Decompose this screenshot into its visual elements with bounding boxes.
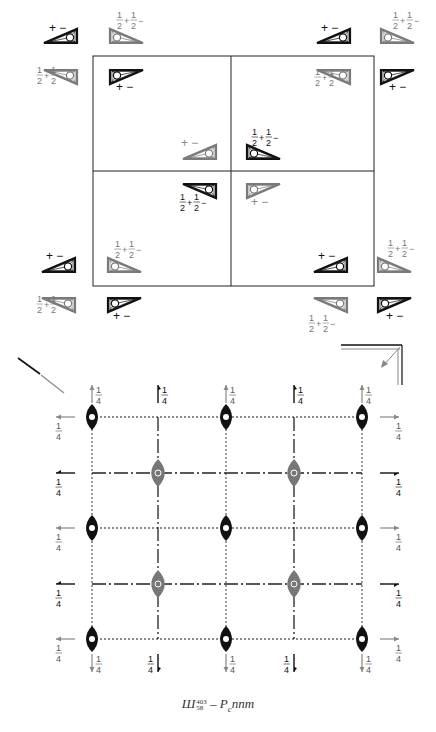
svg-text:+ −: + − (321, 21, 338, 35)
svg-text:+ −: + − (318, 249, 335, 263)
svg-text:4: 4 (56, 599, 61, 609)
top-axis-arrows: 14 14 14 14 14 (90, 385, 373, 406)
svg-text:+ −: + − (181, 136, 198, 150)
svg-text:1: 1 (396, 477, 401, 487)
svg-text:1: 1 (56, 477, 61, 487)
svg-text:+: + (316, 319, 321, 329)
svg-text:4: 4 (396, 599, 401, 609)
svg-text:4: 4 (396, 488, 401, 498)
svg-text:1: 1 (37, 65, 42, 75)
svg-text:1: 1 (115, 239, 120, 249)
svg-text:4: 4 (56, 543, 61, 553)
svg-text:+: + (187, 198, 192, 208)
svg-text:−: − (336, 73, 341, 83)
right-axis-arrows: 14 14 14 14 14 (380, 415, 402, 665)
svg-text:1: 1 (407, 10, 412, 20)
svg-text:−: − (136, 245, 141, 255)
bottom-panel: 14 14 14 14 14 14 14 14 14 14 14 14 14 1… (18, 345, 402, 675)
svg-text:2: 2 (329, 78, 334, 88)
space-group-diagram: + − + − + − + − + − + − + − (0, 0, 436, 732)
svg-text:1: 1 (56, 421, 61, 431)
svg-text:−: − (414, 16, 419, 26)
svg-text:−: − (409, 244, 414, 254)
svg-text:1: 1 (323, 313, 328, 323)
svg-text:4: 4 (56, 654, 61, 664)
svg-text:1: 1 (180, 192, 185, 202)
svg-text:4: 4 (284, 665, 289, 675)
svg-text:−: − (58, 300, 63, 310)
svg-text:−: − (58, 71, 63, 81)
svg-text:1: 1 (131, 10, 136, 20)
caption-prefix: Ш (182, 696, 196, 711)
diagonal-axis-marker (18, 358, 64, 393)
caption-subscript: 58 (196, 705, 207, 711)
bottom-axis-arrows: 14 14 14 14 14 (90, 654, 373, 675)
svg-text:1: 1 (284, 654, 289, 664)
svg-text:+ −: + − (389, 80, 406, 94)
svg-text:−: − (201, 198, 206, 208)
svg-text:4: 4 (366, 665, 371, 675)
svg-text:2: 2 (117, 21, 122, 31)
svg-text:1: 1 (402, 238, 407, 248)
svg-text:+ −: + − (386, 309, 403, 323)
svg-text:1: 1 (194, 192, 199, 202)
svg-text:1: 1 (51, 65, 56, 75)
svg-text:+: + (322, 73, 327, 83)
svg-text:1: 1 (298, 385, 303, 395)
svg-text:+: + (395, 244, 400, 254)
svg-text:4: 4 (96, 665, 101, 675)
svg-text:1: 1 (117, 10, 122, 20)
svg-text:1: 1 (230, 654, 235, 664)
svg-text:+: + (44, 300, 49, 310)
svg-text:−: − (330, 319, 335, 329)
svg-text:1: 1 (162, 385, 167, 395)
svg-text:+ −: + − (116, 80, 133, 94)
caption-symbol-main: P (220, 696, 228, 711)
svg-text:+: + (124, 16, 129, 26)
svg-text:1: 1 (148, 654, 153, 664)
svg-text:1: 1 (266, 127, 271, 137)
svg-text:4: 4 (56, 432, 61, 442)
svg-text:4: 4 (96, 396, 101, 406)
svg-text:2: 2 (37, 305, 42, 315)
top-panel: + − + − + − + − + − + − + − (37, 10, 420, 334)
svg-text:1: 1 (37, 294, 42, 304)
svg-text:1: 1 (396, 588, 401, 598)
svg-text:+: + (122, 245, 127, 255)
svg-text:4: 4 (366, 396, 371, 406)
svg-text:1: 1 (396, 421, 401, 431)
svg-text:2: 2 (129, 250, 134, 260)
svg-text:4: 4 (162, 396, 167, 406)
svg-text:4: 4 (396, 432, 401, 442)
svg-text:+: + (44, 71, 49, 81)
svg-text:2: 2 (51, 76, 56, 86)
svg-text:1: 1 (129, 239, 134, 249)
figure-caption: Ш40358 – Pcnnm (0, 696, 436, 714)
svg-text:2: 2 (37, 76, 42, 86)
svg-text:1: 1 (396, 532, 401, 542)
svg-text:4: 4 (56, 488, 61, 498)
svg-text:2: 2 (115, 250, 120, 260)
svg-text:2: 2 (194, 203, 199, 213)
svg-text:+ −: + − (251, 195, 268, 209)
svg-text:4: 4 (230, 665, 235, 675)
svg-text:2: 2 (180, 203, 185, 213)
svg-text:4: 4 (230, 396, 235, 406)
svg-text:2: 2 (51, 305, 56, 315)
half-labels: 12 + 12 − 12 + 12 − 12 + 12 − 12 + 12 (37, 10, 420, 334)
svg-text:2: 2 (323, 324, 328, 334)
svg-text:1: 1 (366, 654, 371, 664)
svg-text:1: 1 (56, 643, 61, 653)
svg-text:+ −: + − (49, 21, 66, 35)
svg-text:+: + (400, 16, 405, 26)
svg-text:1: 1 (96, 385, 101, 395)
svg-text:1: 1 (309, 313, 314, 323)
svg-text:+ −: + − (113, 309, 130, 323)
svg-text:4: 4 (298, 396, 303, 406)
svg-text:4: 4 (148, 665, 153, 675)
svg-text:1: 1 (388, 238, 393, 248)
svg-text:1: 1 (329, 67, 334, 77)
svg-text:1: 1 (366, 385, 371, 395)
svg-text:2: 2 (315, 78, 320, 88)
svg-text:4: 4 (396, 543, 401, 553)
